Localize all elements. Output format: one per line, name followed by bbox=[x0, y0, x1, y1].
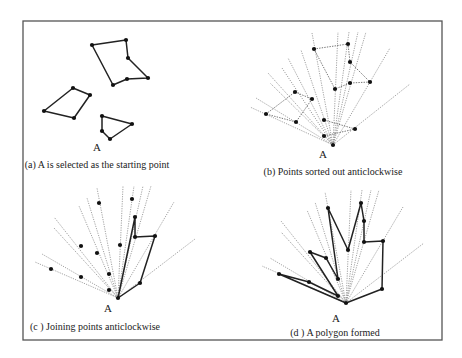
panel-a-vertex-dot bbox=[42, 109, 46, 113]
panel-a-point-label: A bbox=[93, 141, 101, 153]
panel-a-polygon-edge bbox=[102, 116, 132, 139]
panel-d-vertex-dot bbox=[307, 280, 311, 284]
panel-d-vertex-dot bbox=[336, 294, 340, 298]
panel-b-vertex-dot bbox=[368, 80, 372, 84]
panel-a-vertex-dot bbox=[71, 86, 75, 90]
panel-a-vertex-dot bbox=[146, 76, 150, 80]
panel-d-vertex-dot bbox=[359, 201, 363, 205]
panel-b-vertex-dot bbox=[322, 118, 326, 122]
panel-d-vertex-dot bbox=[277, 272, 281, 276]
panel-b-vertex-dot bbox=[333, 87, 337, 91]
panel-b-vertex-dot bbox=[331, 143, 335, 147]
panel-a-vertex-dot bbox=[108, 137, 112, 141]
panel-c-ray bbox=[118, 186, 151, 298]
panel-d-ray bbox=[346, 243, 424, 303]
panel-c-vertex-dot bbox=[49, 267, 53, 271]
panel-b-vertex-dot bbox=[348, 60, 352, 64]
panel-b-vertex-dot bbox=[264, 112, 268, 116]
panel-d-polygon-edge bbox=[279, 203, 383, 303]
panel-d-caption: (d ) A polygon formed bbox=[290, 327, 379, 338]
panel-d-vertex-dot bbox=[324, 256, 328, 260]
panel-a-polygon-edge bbox=[92, 40, 148, 85]
panel-b-vertex-dot bbox=[353, 127, 357, 131]
diagram-canvas bbox=[0, 0, 462, 358]
panel-c-caption: (c ) Joining points anticlockwise bbox=[30, 321, 160, 332]
panel-c-ray bbox=[118, 202, 174, 298]
figure-frame bbox=[23, 21, 442, 340]
panel-c-vertex-dot bbox=[79, 244, 83, 248]
panel-d-ray bbox=[346, 190, 379, 303]
panel-b-vertex-dot bbox=[312, 47, 316, 51]
panel-d-vertex-dot bbox=[344, 301, 348, 305]
panel-c-ray bbox=[87, 198, 118, 298]
panel-b-vertex-dot bbox=[310, 97, 314, 101]
panel-c-vertex-dot bbox=[107, 272, 111, 276]
panel-d-ray bbox=[346, 207, 403, 303]
panel-c-point-label: A bbox=[104, 302, 112, 314]
panel-b-vertex-dot bbox=[293, 90, 297, 94]
panel-a-vertex-dot bbox=[125, 77, 129, 81]
panel-a-polygon-edge bbox=[44, 88, 90, 118]
panel-c-vertex-dot bbox=[130, 197, 134, 201]
panel-b-caption: (b) Points sorted out anticlockwise bbox=[264, 166, 403, 177]
panel-d-vertex-dot bbox=[346, 248, 350, 252]
panel-d-point-label: A bbox=[332, 312, 340, 324]
panel-c-vertex-dot bbox=[107, 288, 111, 292]
panel-a-vertex-dot bbox=[100, 129, 104, 133]
panel-c-ray bbox=[35, 262, 118, 298]
panel-d-vertex-dot bbox=[326, 206, 330, 210]
panel-b-vertex-dot bbox=[322, 134, 326, 138]
panel-a-vertex-dot bbox=[124, 38, 128, 42]
panel-c-ray bbox=[54, 228, 118, 298]
panel-d-ray bbox=[346, 190, 371, 303]
panel-c-vertex-dot bbox=[153, 234, 157, 238]
panel-c-vertex-dot bbox=[138, 281, 142, 285]
panel-c-vertex-dot bbox=[116, 296, 120, 300]
panel-d-vertex-dot bbox=[362, 240, 366, 244]
panel-b-vertex-dot bbox=[294, 120, 298, 124]
panel-b-ray bbox=[282, 68, 333, 145]
panel-a-vertex-dot bbox=[100, 114, 104, 118]
panel-c-vertex-dot bbox=[133, 215, 137, 219]
panel-a-vertex-dot bbox=[111, 83, 115, 87]
panel-d-vertex-dot bbox=[308, 250, 312, 254]
panel-d-vertex-dot bbox=[362, 219, 366, 223]
panel-b-vertex-dot bbox=[346, 42, 350, 46]
panel-d-vertex-dot bbox=[336, 277, 340, 281]
panel-c-vertex-dot bbox=[79, 275, 83, 279]
panel-a-caption: (a) A is selected as the starting point bbox=[25, 159, 170, 170]
panel-a-vertex-dot bbox=[72, 116, 76, 120]
panel-a-vertex-dot bbox=[90, 43, 94, 47]
panel-a-vertex-dot bbox=[126, 56, 130, 60]
panel-b-vertex-dot bbox=[348, 81, 352, 85]
panel-c-vertex-dot bbox=[118, 243, 122, 247]
panel-c-ray bbox=[54, 217, 118, 298]
panel-b-ray bbox=[301, 50, 333, 145]
figure-container: A (a) A is selected as the starting poin… bbox=[0, 0, 462, 358]
panel-c-vertex-dot bbox=[97, 201, 101, 205]
panel-d-vertex-dot bbox=[381, 239, 385, 243]
panel-b-point-label: A bbox=[319, 148, 327, 160]
panel-b-ray bbox=[333, 32, 366, 145]
panel-b-ray bbox=[333, 48, 390, 145]
panel-c-vertex-dot bbox=[95, 251, 99, 255]
panel-a-vertex-dot bbox=[88, 93, 92, 97]
panel-d-vertex-dot bbox=[380, 287, 384, 291]
panel-c-vertex-dot bbox=[133, 235, 137, 239]
panel-a-vertex-dot bbox=[130, 122, 134, 126]
